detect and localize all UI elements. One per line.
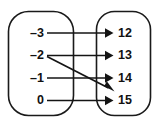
range-value-1: 13: [118, 48, 132, 62]
domain-value-3: 0: [37, 93, 44, 107]
range-value-3: 15: [118, 93, 132, 107]
mapping-diagram-canvas: –3 –2 –1 0 12 13 14 15: [0, 0, 158, 126]
range-value-2: 14: [118, 71, 132, 85]
domain-value-0: –3: [30, 26, 44, 40]
mapping-diagram: –3 –2 –1 0 12 13 14 15: [0, 0, 158, 126]
domain-value-1: –2: [30, 48, 44, 62]
range-value-0: 12: [118, 26, 132, 40]
domain-value-2: –1: [30, 71, 44, 85]
